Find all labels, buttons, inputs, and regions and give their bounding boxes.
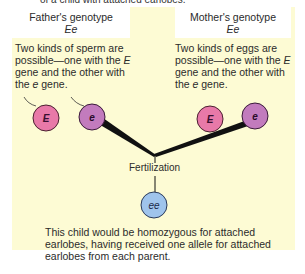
child-zygote: ee [141,192,167,218]
fertilization-label: Fertilization [129,162,180,173]
mother-egg-E: E [197,106,223,132]
father-gamete-path [97,118,156,157]
father-sperm-E: E [33,105,59,131]
father-sperm-e: e [79,104,105,130]
father-E-leader-line [24,97,36,106]
sperm-E-label: E [43,113,50,124]
conclusion-text: This child would be homozygous for attac… [45,226,275,262]
mother-egg-e: e [242,103,268,129]
egg-E-label: E [207,114,214,125]
egg-e-label: e [252,111,258,122]
child-label: ee [148,200,160,211]
sperm-e-label: e [89,112,95,123]
father-e-leader-line [71,97,84,106]
